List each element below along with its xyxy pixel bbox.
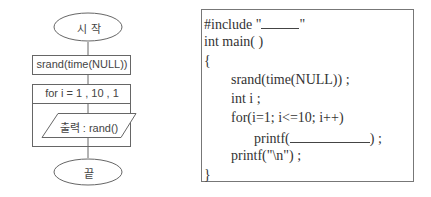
code-line-main: int main( ): [204, 35, 263, 49]
code-line-printf-newline: printf("\n") ;: [231, 149, 301, 163]
end-terminal-label: 끝: [55, 165, 123, 181]
code-line-close-brace: }: [204, 168, 211, 182]
code-listing: #include "" int main( ) { srand(time(NUL…: [201, 9, 414, 182]
start-terminal-label: 시 작: [55, 20, 123, 36]
code-line-printf-blank: printf() ;: [254, 130, 382, 146]
code-line-for: for(i=1; i<=10; i++): [231, 111, 344, 125]
code-line-srand: srand(time(NULL)) ;: [231, 73, 350, 87]
for-loop-label: for i = 1 , 10 , 1: [32, 87, 132, 99]
include-blank: [261, 16, 299, 29]
code-line-include: #include "": [204, 16, 305, 32]
flowchart: 시 작 srand(time(NULL)) for i = 1 , 10 , 1…: [0, 0, 190, 197]
code-line-open-brace: {: [204, 54, 211, 68]
srand-process-label: srand(time(NULL)): [32, 58, 132, 70]
code-line-int-i: int i ;: [231, 92, 261, 106]
output-io-label: 출력 : rand(): [45, 119, 133, 135]
printf-blank: [290, 130, 370, 143]
